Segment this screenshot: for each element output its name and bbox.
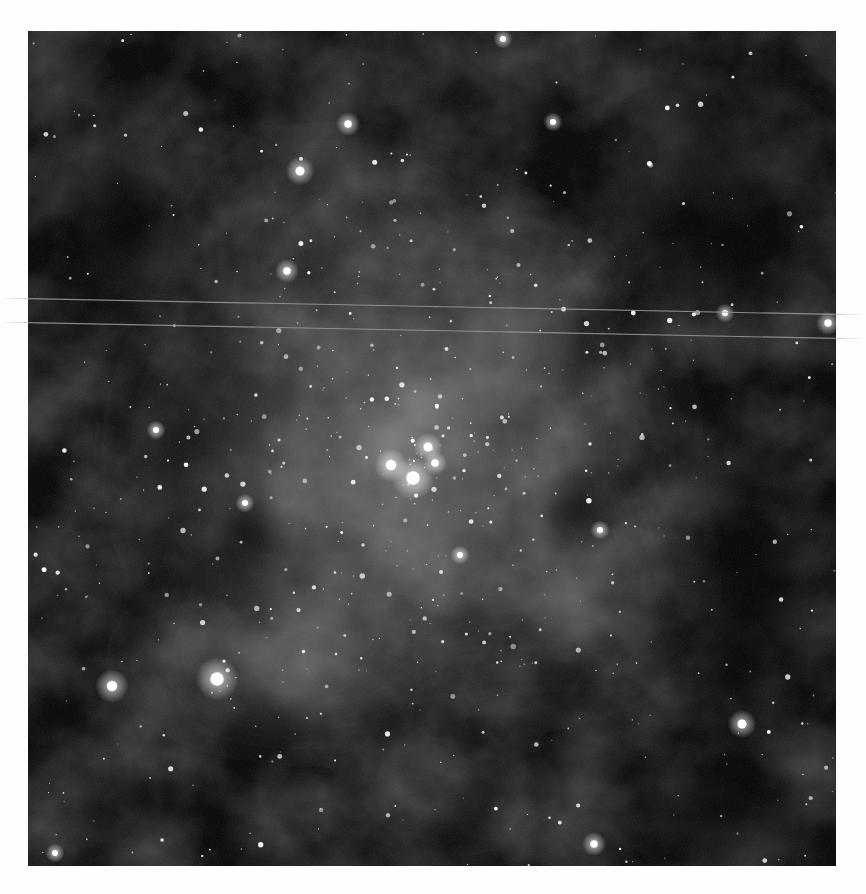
star — [698, 672, 700, 674]
star — [437, 605, 438, 606]
star — [82, 667, 86, 671]
star — [249, 833, 250, 834]
star — [160, 838, 164, 842]
star — [521, 659, 522, 660]
star — [832, 791, 833, 792]
star — [497, 474, 501, 478]
star — [214, 280, 217, 283]
star — [833, 570, 834, 571]
star — [282, 670, 283, 671]
star — [519, 666, 520, 667]
star — [436, 477, 438, 479]
star — [500, 660, 502, 662]
bright-star — [722, 310, 728, 316]
star — [167, 459, 169, 461]
star — [619, 848, 621, 850]
star — [579, 718, 580, 719]
star — [454, 357, 455, 358]
star — [713, 192, 714, 193]
star — [808, 376, 811, 379]
star — [293, 591, 295, 593]
star — [811, 529, 812, 530]
star — [288, 523, 289, 524]
star — [441, 434, 444, 437]
star — [275, 192, 276, 193]
star — [239, 341, 241, 343]
star — [326, 449, 328, 451]
star — [756, 554, 757, 555]
star — [625, 861, 627, 863]
star — [445, 555, 446, 556]
star — [494, 807, 498, 811]
star — [270, 617, 273, 620]
star — [811, 609, 813, 611]
star — [209, 849, 211, 851]
star — [726, 461, 730, 465]
star — [106, 350, 107, 351]
star — [320, 713, 322, 715]
star — [335, 653, 338, 656]
star — [502, 419, 507, 424]
star — [230, 698, 232, 700]
star — [562, 369, 563, 370]
streak-right-2 — [836, 338, 866, 339]
star — [617, 465, 618, 466]
star — [121, 661, 123, 663]
star — [832, 757, 834, 759]
star — [625, 522, 627, 524]
star — [645, 756, 647, 758]
star — [693, 581, 695, 583]
star — [520, 549, 522, 551]
star — [441, 640, 444, 643]
bright-star — [824, 319, 832, 327]
star — [567, 728, 569, 730]
star — [785, 674, 790, 679]
star — [277, 438, 280, 441]
star — [351, 593, 352, 594]
star — [336, 147, 337, 148]
star — [203, 70, 205, 72]
star — [53, 135, 56, 138]
star — [364, 402, 366, 404]
star — [648, 162, 653, 167]
star — [447, 426, 450, 429]
star — [117, 183, 118, 184]
star — [556, 82, 558, 84]
star — [75, 510, 76, 511]
star — [659, 267, 660, 268]
star — [341, 572, 342, 573]
star — [732, 76, 735, 79]
star — [332, 378, 334, 380]
star — [508, 413, 509, 414]
star — [318, 828, 319, 829]
bright-star — [296, 167, 305, 176]
star — [93, 124, 96, 127]
star — [421, 607, 423, 609]
star — [779, 409, 781, 411]
star — [192, 785, 193, 786]
star — [136, 660, 137, 661]
star — [726, 763, 727, 764]
star — [264, 218, 268, 222]
star — [777, 302, 778, 303]
star — [462, 398, 463, 399]
star — [148, 572, 149, 573]
star — [515, 459, 517, 461]
star — [161, 146, 162, 147]
star — [831, 363, 833, 365]
bright-star — [107, 681, 118, 692]
star — [278, 717, 279, 718]
star — [229, 508, 230, 509]
star — [325, 685, 329, 689]
star — [412, 703, 414, 705]
star — [466, 194, 467, 195]
star — [392, 199, 396, 203]
star — [438, 394, 442, 398]
star — [448, 511, 450, 513]
star — [516, 263, 520, 267]
star — [658, 388, 660, 390]
star — [309, 239, 312, 242]
star — [282, 681, 283, 682]
star — [802, 774, 804, 776]
star — [805, 803, 807, 805]
